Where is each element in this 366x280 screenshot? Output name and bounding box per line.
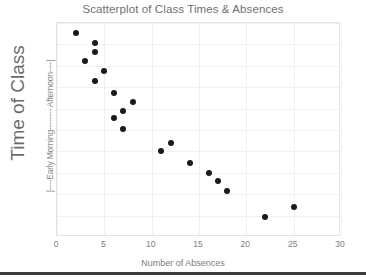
- gridline-horizontal: [57, 109, 339, 110]
- gridline-horizontal: [57, 23, 339, 24]
- x-axis-title: Number of Absences: [0, 258, 366, 268]
- data-point: [158, 148, 164, 154]
- data-point: [130, 99, 136, 105]
- x-tick-label: 10: [136, 239, 166, 249]
- gridline-vertical: [341, 23, 342, 235]
- gridline-vertical: [246, 23, 247, 235]
- x-tick-label: 5: [88, 239, 118, 249]
- x-tick-label: 30: [325, 239, 355, 249]
- y-axis-title: Time of Class: [7, 13, 29, 193]
- x-tick-label: 0: [41, 239, 71, 249]
- gridline-horizontal: [57, 66, 339, 67]
- gridline-horizontal: [57, 130, 339, 131]
- data-point: [111, 115, 117, 121]
- bottom-rule-divider: [0, 272, 366, 275]
- gridline-vertical: [57, 23, 58, 235]
- x-tick-label: 15: [183, 239, 213, 249]
- data-point: [215, 178, 221, 184]
- data-point: [187, 160, 193, 166]
- gridline-horizontal: [57, 44, 339, 45]
- data-point: [82, 58, 88, 64]
- chart-title: Scatterplot of Class Times & Absences: [0, 3, 366, 15]
- x-tick-label: 25: [278, 239, 308, 249]
- y-axis-scale-label: |----Early Morning-------- Afternoon----…: [45, 16, 55, 236]
- data-point: [168, 140, 174, 146]
- gridline-vertical: [199, 23, 200, 235]
- data-point: [291, 204, 297, 210]
- gridline-horizontal: [57, 87, 339, 88]
- data-point: [101, 68, 107, 74]
- plot-area: [56, 22, 340, 236]
- data-point: [120, 108, 126, 114]
- scatterplot-figure: Scatterplot of Class Times & Absences Ti…: [0, 0, 366, 280]
- gridline-vertical: [104, 23, 105, 235]
- data-point: [111, 90, 117, 96]
- gridline-horizontal: [57, 216, 339, 217]
- data-point: [262, 214, 268, 220]
- data-point: [224, 188, 230, 194]
- data-point: [206, 170, 212, 176]
- gridline-horizontal: [57, 151, 339, 152]
- data-point: [73, 30, 79, 36]
- data-point: [92, 40, 98, 46]
- gridline-horizontal: [57, 173, 339, 174]
- data-point: [92, 49, 98, 55]
- data-point: [92, 78, 98, 84]
- x-axis-tick-labels: 051015202530: [0, 239, 366, 253]
- gridline-vertical: [152, 23, 153, 235]
- x-tick-label: 20: [230, 239, 260, 249]
- gridline-horizontal: [57, 194, 339, 195]
